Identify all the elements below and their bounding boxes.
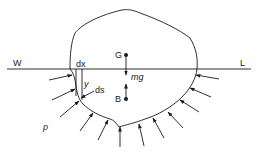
center-of-buoyancy-label: B [115,94,121,104]
weight-label: mg [131,72,144,82]
waterline-left-label: W [13,58,22,68]
dx-label: dx [76,59,86,69]
ds-label: ds [95,85,105,95]
floating-body-outline [70,10,197,127]
floating-body-diagram: dx y ds W L G mg B p [0,0,256,158]
waterline-right-label: L [240,58,245,68]
pressure-label: p [42,122,48,132]
y-label: y [83,79,89,89]
pressure-arrows [49,75,219,147]
center-of-gravity-label: G [115,50,122,60]
ds-pointer [81,91,94,98]
